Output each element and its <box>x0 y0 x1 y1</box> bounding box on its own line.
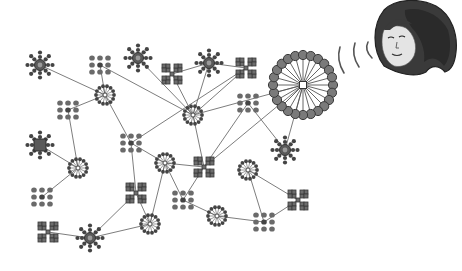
burst-node-icon <box>237 159 259 180</box>
burst-node-icon <box>206 205 228 226</box>
grid-node-icon <box>31 187 53 206</box>
cross-node-icon <box>162 64 182 84</box>
sun-node-icon <box>75 223 104 252</box>
edges-layer <box>40 58 303 238</box>
burst-node-icon <box>154 152 176 173</box>
cross-node-icon <box>38 222 58 242</box>
burst-node-icon <box>139 213 161 234</box>
broadcast-hub-node <box>268 50 337 119</box>
sun-node-icon <box>123 43 152 72</box>
signal-waves-icon <box>339 42 372 73</box>
cross-node-icon <box>126 183 146 203</box>
edge-n14-n18 <box>42 168 78 197</box>
wave-arc-1 <box>339 47 344 73</box>
grid-node-icon <box>89 55 111 74</box>
wave-arc-2 <box>354 43 359 67</box>
cross-node-icon <box>288 190 308 210</box>
burst-node-icon <box>67 157 89 178</box>
sun-square-node-icon <box>25 130 54 159</box>
sun-node-icon <box>270 135 299 164</box>
graph-canvas <box>0 0 462 271</box>
hub-satellite-icon <box>327 73 336 82</box>
cross-node-icon <box>236 58 256 78</box>
grid-node-icon <box>172 190 194 209</box>
grid-node-icon <box>237 93 259 112</box>
sun-node-icon <box>194 48 223 77</box>
wave-arc-3 <box>367 42 372 58</box>
face-illustration <box>375 0 456 74</box>
edge-n12-n15 <box>131 143 165 163</box>
hub-center-icon <box>300 82 307 89</box>
nodes-layer <box>25 43 308 252</box>
sun-node-icon <box>25 50 54 79</box>
burst-node-icon <box>94 84 116 105</box>
grid-node-icon <box>57 100 79 119</box>
network-diagram: Network diagram of heterogeneous nodes l… <box>0 0 462 271</box>
grid-node-icon <box>120 133 142 152</box>
cross-node-icon <box>194 157 214 177</box>
grid-node-icon <box>253 212 275 231</box>
